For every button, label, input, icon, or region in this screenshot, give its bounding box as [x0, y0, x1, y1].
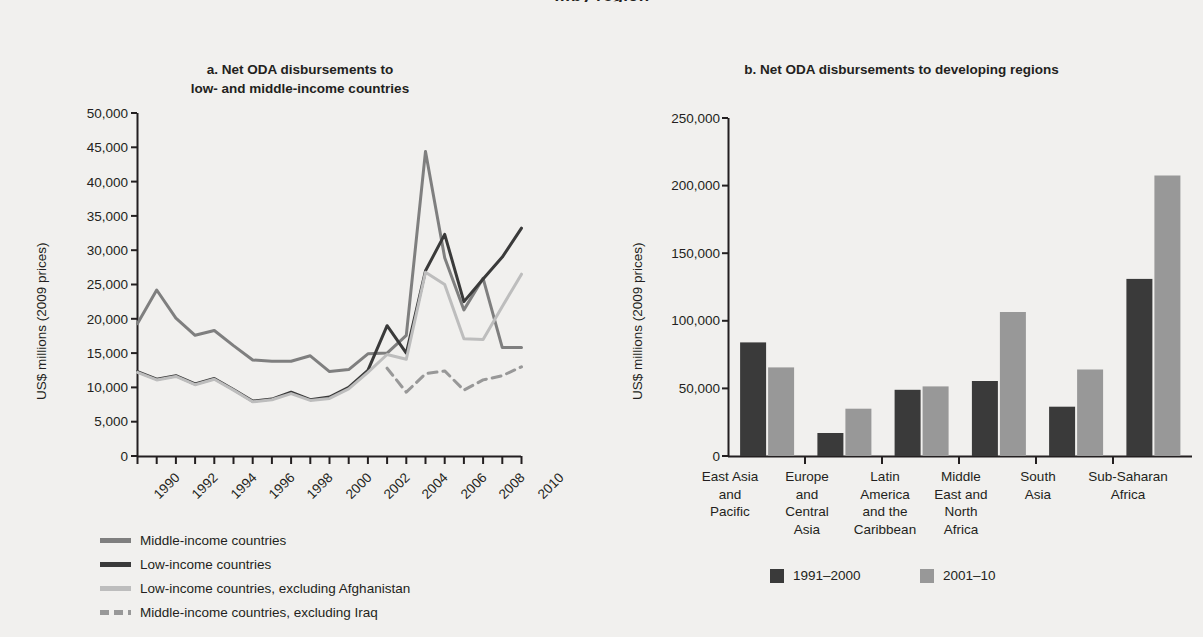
panel-a-legend-item-middle-income[interactable]: Middle-income countries — [100, 533, 286, 548]
category-label-line: Africa — [922, 521, 1000, 539]
panel-a-legend-item-low-income-excl-afghanistan[interactable]: Low-income countries, excluding Afghanis… — [100, 581, 410, 596]
legend-label: Low-income countries, excluding Afghanis… — [140, 581, 410, 596]
panel-a-legend-item-low-income[interactable]: Low-income countries — [100, 557, 271, 572]
legend-label: Low-income countries — [140, 557, 271, 572]
category-label-line: South — [1000, 468, 1076, 486]
bar — [740, 342, 766, 456]
category-label-line: and the — [844, 503, 926, 521]
category-label-line: and — [769, 486, 845, 504]
panel-a-legend-item-middle-income-excl-iraq[interactable]: Middle-income countries, excluding Iraq — [100, 605, 378, 620]
category-label-line: Africa — [1073, 486, 1183, 504]
category-label-line: Asia — [769, 521, 845, 539]
legend-label: Middle-income countries — [140, 533, 286, 548]
category-label-line: Europe — [769, 468, 845, 486]
panel-a-plot — [0, 0, 600, 520]
bar — [895, 390, 921, 456]
bar — [1049, 407, 1075, 456]
panel-b-plot — [600, 0, 1203, 520]
category-label-middle-east-and-north-africa: MiddleEast andNorthAfrica — [922, 468, 1000, 538]
bar — [768, 367, 794, 456]
line-series — [138, 272, 522, 402]
category-label-line: North — [922, 503, 1000, 521]
category-label-europe-and-central-asia: EuropeandCentralAsia — [769, 468, 845, 538]
category-label-line: and — [692, 486, 768, 504]
panel-b-legend-item-2001-10[interactable]: 2001–10 — [920, 568, 996, 583]
panel-a-x-tickmarks — [138, 456, 522, 464]
line-series — [387, 367, 521, 392]
legend-line-swatch — [100, 586, 131, 591]
category-label-south-asia: SouthAsia — [1000, 468, 1076, 503]
legend-color-swatch — [920, 569, 934, 583]
bar — [923, 386, 949, 456]
bar — [1126, 279, 1152, 456]
bar — [1077, 370, 1103, 457]
legend-line-swatch — [100, 538, 131, 543]
line-series — [138, 228, 522, 401]
category-label-line: Central — [769, 503, 845, 521]
bar — [817, 433, 843, 456]
category-label-line: Sub-Saharan — [1073, 468, 1183, 486]
legend-label: 2001–10 — [943, 568, 996, 583]
panel-a-line-chart: a. Net ODA disbursements to low- and mid… — [0, 0, 600, 637]
category-label-line: East and — [922, 486, 1000, 504]
bar — [1000, 312, 1026, 456]
category-label-line: Caribbean — [844, 521, 926, 539]
bar — [972, 381, 998, 456]
category-label-line: America — [844, 486, 926, 504]
legend-color-swatch — [770, 569, 784, 583]
category-label-east-asia-and-pacific: East AsiaandPacific — [692, 468, 768, 521]
category-label-latin-america-and-the-caribbean: LatinAmericaand theCaribbean — [844, 468, 926, 538]
category-label-line: Latin — [844, 468, 926, 486]
category-label-sub-saharan-africa: Sub-SaharanAfrica — [1073, 468, 1183, 503]
figure-canvas: …by region a. Net ODA disbursements to l… — [0, 0, 1203, 637]
panel-b-bar-chart: b. Net ODA disbursements to developing r… — [600, 0, 1203, 637]
panel-b-y-tickmarks — [722, 118, 728, 456]
legend-dashed-line-swatch — [100, 610, 131, 615]
panel-b-bars-group — [740, 176, 1180, 457]
bar — [845, 409, 871, 456]
category-label-line: Asia — [1000, 486, 1076, 504]
category-label-line: East Asia — [692, 468, 768, 486]
category-label-line: Middle — [922, 468, 1000, 486]
legend-line-swatch — [100, 562, 131, 567]
panel-b-legend-item-1991-2000[interactable]: 1991–2000 — [770, 568, 861, 583]
legend-label: 1991–2000 — [793, 568, 861, 583]
panel-a-y-tickmarks — [131, 113, 137, 456]
panel-a-series-group — [138, 151, 522, 401]
category-label-line: Pacific — [692, 503, 768, 521]
legend-label: Middle-income countries, excluding Iraq — [140, 605, 378, 620]
bar — [1154, 176, 1180, 457]
